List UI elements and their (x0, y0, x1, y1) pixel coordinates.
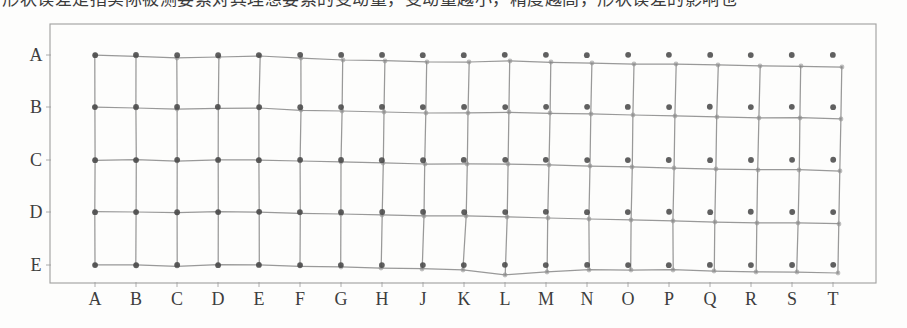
reference-dot-AA (92, 52, 98, 58)
reference-dot-AG (338, 52, 344, 58)
reference-dot-CG (338, 157, 344, 163)
reference-dot-CN (584, 157, 590, 163)
reference-dot-EB (133, 262, 139, 268)
reference-dot-CA (92, 157, 98, 163)
column-label-K: K (458, 289, 471, 309)
mesh-node-CT (838, 169, 843, 174)
mesh-node-DN (587, 217, 592, 222)
mesh-node-CM (547, 163, 552, 168)
reference-dot-CJ (420, 157, 426, 163)
mesh-col-L (505, 61, 510, 275)
reference-dot-BB (133, 104, 139, 110)
mesh-node-BO (631, 113, 636, 118)
reference-dot-AP (666, 52, 672, 58)
mesh-node-EN (587, 268, 592, 273)
reference-dot-BR (748, 104, 754, 110)
column-label-R: R (745, 289, 757, 309)
mesh-node-BJ (424, 111, 429, 116)
reference-dot-BO (625, 104, 631, 110)
reference-dot-EO (625, 262, 631, 268)
reference-dot-BK (461, 104, 467, 110)
column-label-S: S (787, 289, 797, 309)
mesh-node-AK (467, 60, 472, 65)
column-label-L: L (500, 289, 511, 309)
reference-dot-BQ (707, 104, 713, 110)
grid-distortion-plot: ABCDE ABCDEFGHJKLMNOPQRST (0, 14, 907, 328)
column-label-F: F (295, 289, 305, 309)
column-label-A: A (89, 289, 102, 309)
mesh-node-BT (839, 117, 844, 122)
reference-dot-CF (297, 157, 303, 163)
mesh-node-EL (503, 273, 508, 278)
reference-dot-AT (830, 52, 836, 58)
mesh-node-BM (548, 111, 553, 116)
column-label-B: B (130, 289, 142, 309)
reference-dot-DP (666, 209, 672, 215)
mesh-node-EK (461, 268, 466, 273)
caption-strip: 形状误差是指实际被测要素对其理想要素的变动量，变动量越小，精度越高，形状误差的影… (0, 0, 907, 14)
reference-dot-CH (379, 157, 385, 163)
reference-dot-AK (461, 52, 467, 58)
row-label-E: E (31, 255, 42, 275)
mesh-node-CP (672, 166, 677, 171)
reference-dot-DB (133, 209, 139, 215)
reference-dot-BC (174, 104, 180, 110)
reference-dot-DC (174, 209, 180, 215)
reference-dot-BA (92, 104, 98, 110)
reference-dot-EL (502, 262, 508, 268)
mesh-node-EO (629, 268, 634, 273)
reference-dot-CL (502, 157, 508, 163)
reference-dot-BM (543, 104, 549, 110)
figure-container: ABCDE ABCDEFGHJKLMNOPQRST (0, 14, 907, 328)
reference-dot-DM (543, 209, 549, 215)
mesh-node-AQ (716, 63, 721, 68)
reference-dot-DF (297, 209, 303, 215)
reference-dot-EK (461, 262, 467, 268)
column-label-C: C (171, 289, 183, 309)
reference-dot-DG (338, 209, 344, 215)
reference-dot-CS (789, 157, 795, 163)
reference-dot-AD (215, 52, 221, 58)
reference-dot-ET (830, 262, 836, 268)
reference-dot-CP (666, 157, 672, 163)
reference-dot-CE (256, 157, 262, 163)
reference-dot-EN (584, 262, 590, 268)
reference-dot-DD (215, 209, 221, 215)
reference-dot-AR (748, 52, 754, 58)
reference-dot-CM (543, 157, 549, 163)
mesh-node-DS (796, 221, 801, 226)
reference-dot-EJ (420, 262, 426, 268)
reference-dot-AC (174, 52, 180, 58)
reference-dot-EG (338, 262, 344, 268)
mesh-node-AP (674, 62, 679, 67)
reference-dot-BN (584, 104, 590, 110)
reference-dot-DK (461, 209, 467, 215)
mesh-node-AL (508, 59, 513, 64)
mesh-node-ER (754, 270, 759, 275)
mesh-node-DO (629, 218, 634, 223)
mesh-node-BL (507, 110, 512, 115)
mesh-node-CS (797, 168, 802, 173)
reference-dot-DL (502, 209, 508, 215)
mesh-node-BS (798, 116, 803, 121)
column-label-N: N (581, 289, 594, 309)
mesh-node-AR (758, 64, 763, 69)
scanned-page: 形状误差是指实际被测要素对其理想要素的变动量，变动量越小，精度越高，形状误差的影… (0, 0, 907, 328)
reference-dot-BT (830, 104, 836, 110)
mesh-node-DP (671, 219, 676, 224)
mesh-node-AJ (425, 60, 430, 65)
column-label-G: G (335, 289, 348, 309)
row-label-A: A (30, 45, 43, 65)
mesh-node-AN (590, 61, 595, 66)
reference-dot-CQ (707, 157, 713, 163)
plot-frame-rect (50, 24, 876, 283)
reference-dot-DT (830, 209, 836, 215)
mesh-node-EQ (712, 269, 717, 274)
reference-dot-EF (297, 262, 303, 268)
reference-dot-CK (461, 157, 467, 163)
reference-dot-BE (256, 104, 262, 110)
mesh-node-DT (837, 222, 842, 227)
reference-dot-EH (379, 262, 385, 268)
column-label-P: P (664, 289, 674, 309)
reference-dot-AE (256, 52, 262, 58)
